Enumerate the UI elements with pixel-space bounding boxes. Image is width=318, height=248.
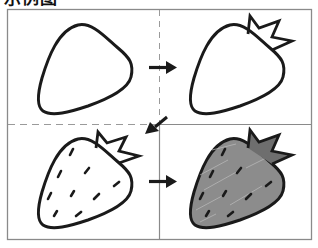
arrow-right-icon	[149, 175, 177, 188]
step1-strawberry-outline	[38, 25, 132, 114]
arrow-down-left-icon	[145, 117, 167, 134]
step3-strawberry-with-seeds	[38, 132, 139, 228]
step2-strawberry-with-leaves	[190, 16, 292, 114]
seed-marks	[48, 149, 119, 216]
arrow-right-icon	[149, 61, 177, 74]
strawberry-diagram	[0, 0, 318, 248]
step4-strawberry-colored	[190, 130, 292, 228]
